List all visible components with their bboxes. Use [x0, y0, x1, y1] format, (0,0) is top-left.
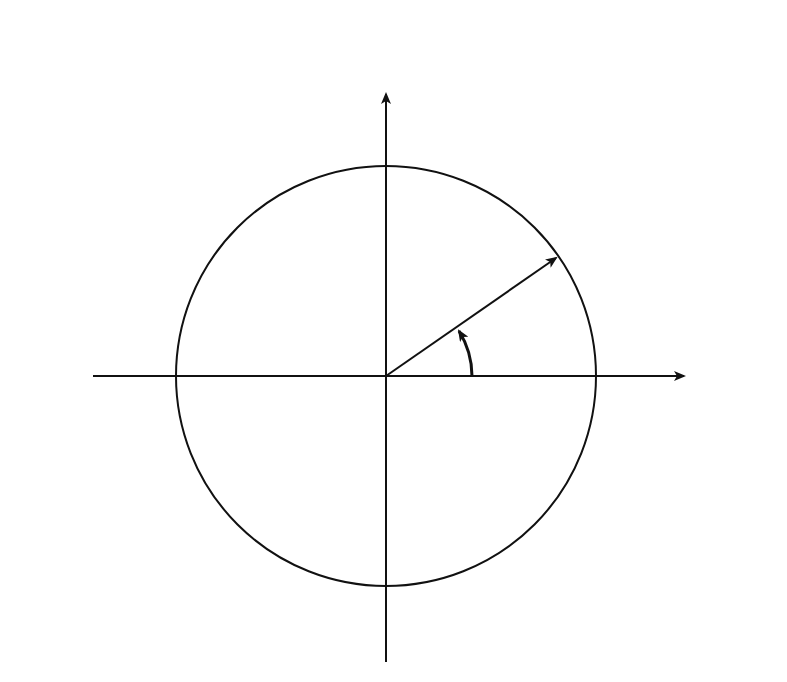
angle-arc-arrow [459, 331, 472, 376]
complex-plane-diagram [0, 0, 787, 682]
